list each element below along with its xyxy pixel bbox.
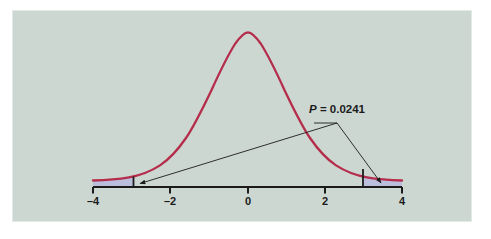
right-leader-line xyxy=(337,123,381,183)
x-tick-label-4: 4 xyxy=(387,195,417,207)
left-leader-line xyxy=(140,123,337,184)
x-tick-label--2: –2 xyxy=(155,195,185,207)
p-symbol: P xyxy=(309,103,317,115)
x-tick-label-0: 0 xyxy=(233,195,263,207)
x-tick-label--4: –4 xyxy=(78,195,108,207)
p-value-number: 0.0241 xyxy=(330,103,365,115)
x-tick-label-2: 2 xyxy=(310,195,340,207)
equals-sign: = xyxy=(320,103,327,115)
normal-distribution-figure: P = 0.0241 –4 –2 0 2 4 xyxy=(0,0,491,239)
p-value-annotation: P = 0.0241 xyxy=(309,103,365,116)
